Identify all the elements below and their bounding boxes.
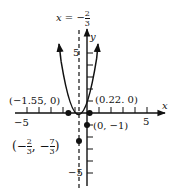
vertex-point xyxy=(76,138,82,144)
curve-arrow-right xyxy=(97,44,98,58)
axis-of-symmetry-label: x = −23 xyxy=(56,9,90,28)
x-axis-label: x xyxy=(162,101,168,111)
y-axis-label: y xyxy=(90,32,96,42)
y-intercept-point xyxy=(84,122,90,128)
y-tick-label-neg5: −5 xyxy=(68,168,83,178)
vertex-label: (−23, −73) xyxy=(12,137,59,156)
x-tick-label-neg5: −5 xyxy=(14,118,29,128)
x-tick-label-5: 5 xyxy=(143,117,149,127)
root-right-label: (0.22. 0) xyxy=(95,95,138,105)
curve-arrow-left xyxy=(59,44,61,62)
y-intercept-label: (0, −1) xyxy=(93,121,128,131)
root-left-label: (−1.55, 0) xyxy=(9,96,60,106)
root-left-point xyxy=(65,110,71,116)
y-tick-label-5: 5 xyxy=(73,48,79,58)
root-right-point xyxy=(87,110,93,116)
